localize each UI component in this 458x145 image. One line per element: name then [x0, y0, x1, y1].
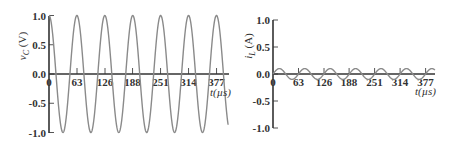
x-tick-label: 251 [366, 76, 383, 88]
x-axis-title: t(µs) [210, 86, 231, 99]
y-axis-title: vC (V) [16, 32, 31, 61]
y-tick-label: -1.0 [29, 127, 47, 139]
y-tick-label: 0.0 [256, 68, 270, 80]
x-tick-label: 251 [152, 76, 169, 88]
x-tick-label: 188 [341, 76, 358, 88]
x-tick-label: 126 [97, 76, 114, 88]
voltage-chart: vC (V) 1.00.50.0-0.5-1.0 063126188251314… [16, 10, 231, 139]
x-tick-label: 63 [72, 76, 84, 88]
y-tick-label: 1.0 [32, 10, 46, 22]
svg-text:vC (V): vC (V) [16, 32, 31, 61]
y-axis-title-unit: (A) [242, 33, 255, 51]
x-ticks: 063126188251314377 [46, 68, 225, 88]
x-tick-label: 314 [392, 76, 409, 88]
x-tick-label: 126 [316, 76, 333, 88]
chart-figure: vC (V) 1.00.50.0-0.5-1.0 063126188251314… [0, 0, 458, 145]
y-tick-label: 0.5 [256, 41, 270, 53]
y-tick-label: 0.0 [32, 68, 46, 80]
x-axis-title: t(µs) [415, 85, 436, 98]
y-tick-label: 1.0 [256, 14, 270, 26]
x-tick-label: 188 [124, 76, 141, 88]
current-chart: iL (A) 1.00.50.0-0.5-1.0 063126188251314… [242, 14, 436, 134]
y-axis-title: iL (A) [242, 33, 257, 59]
y-axis-title-unit: (V) [16, 32, 29, 50]
y-tick-label: -1.0 [253, 122, 271, 134]
x-tick-label: 314 [180, 76, 197, 88]
y-tick-label: -0.5 [29, 97, 47, 109]
y-tick-label: -0.5 [253, 95, 271, 107]
y-tick-label: 0.5 [32, 39, 46, 51]
svg-text:iL (A): iL (A) [242, 33, 257, 59]
